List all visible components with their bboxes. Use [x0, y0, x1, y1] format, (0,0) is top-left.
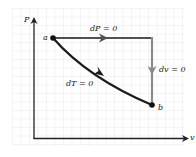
isothermal-label: dT = 0 — [66, 80, 93, 88]
isobaric-label: dP = 0 — [90, 25, 117, 33]
point-a-label: a — [43, 34, 48, 42]
point-a — [50, 35, 56, 41]
point-b-label: b — [158, 104, 163, 112]
y-axis-label: P — [24, 16, 29, 24]
point-b — [149, 102, 155, 108]
isochoric-label: dv = 0 — [159, 66, 186, 74]
x-axis-label: v — [190, 134, 195, 142]
